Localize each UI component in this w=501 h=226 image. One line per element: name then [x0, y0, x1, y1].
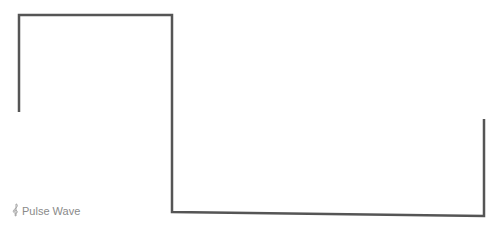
pulse-wave-diagram: [0, 0, 501, 226]
treble-clef-icon: [11, 203, 20, 219]
diagram-caption: Pulse Wave: [11, 203, 80, 219]
pulse-wave-line: [19, 15, 484, 216]
caption-label: Pulse Wave: [22, 205, 80, 217]
